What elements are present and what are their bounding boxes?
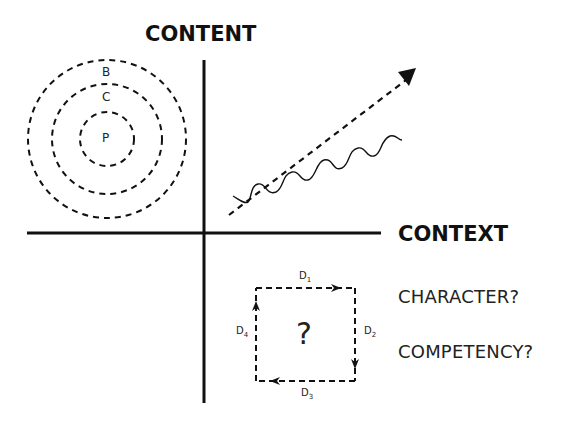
wave-arrow [229, 68, 416, 215]
circle-label-p: P [102, 131, 109, 145]
edge-label-d2: D2 [364, 325, 376, 339]
edge-label-d1: D1 [299, 270, 311, 284]
question-competency: COMPETENCY? [398, 341, 533, 362]
question-mark: ? [296, 316, 312, 351]
circle-label-c: C [102, 90, 110, 104]
dashed-diagonal [229, 77, 410, 215]
arrow-left-icon [270, 377, 280, 385]
question-character: CHARACTER? [398, 286, 519, 307]
arrow-right-icon [331, 284, 341, 292]
arrowhead-icon [398, 68, 416, 86]
context-axis-label: CONTEXT [398, 222, 508, 246]
content-axis-label: CONTENT [145, 22, 256, 46]
edge-label-d3: D3 [301, 387, 313, 401]
edge-label-d4: D4 [236, 325, 248, 339]
circle-label-b: B [102, 65, 110, 79]
